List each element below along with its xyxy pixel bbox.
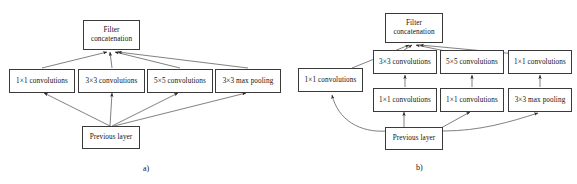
diagram-a-filter-concatenation: Filter concatenation — [83, 20, 140, 50]
diagram-a-branch-3x3-convolutions: 3×3 convolutions — [78, 69, 145, 93]
diagram-b-caption: b) — [416, 163, 423, 172]
diagram-b-bottom-3x3-max-pooling: 3×3 max pooling — [508, 88, 572, 112]
diagram-b-top-1x1-convolutions: 1×1 convolutions — [508, 50, 572, 74]
diagram-b-filter-concatenation: Filter concatenation — [385, 13, 443, 43]
diagram-a-caption: a) — [143, 164, 149, 173]
diagram-b-bottom-1x1-convolutions-a: 1×1 convolutions — [373, 88, 437, 112]
diagram-b-previous-layer: Previous layer — [385, 127, 443, 150]
diagram-b-left-1x1-convolutions: 1×1 convolutions — [298, 68, 363, 92]
inception-module-figure: Filter concatenation 1×1 convolutions 3×… — [0, 0, 577, 184]
diagram-a-branch-3x3-max-pooling: 3×3 max pooling — [215, 69, 281, 93]
diagram-b-top-5x5-convolutions: 5×5 convolutions — [440, 50, 504, 74]
diagram-a-branch-5x5-convolutions: 5×5 convolutions — [147, 69, 213, 93]
diagram-b-top-3x3-convolutions: 3×3 convolutions — [373, 50, 437, 74]
diagram-a-branch-1x1-convolutions: 1×1 convolutions — [9, 69, 75, 93]
diagram-a-previous-layer: Previous layer — [82, 126, 140, 149]
diagram-b-bottom-1x1-convolutions-b: 1×1 convolutions — [440, 88, 504, 112]
